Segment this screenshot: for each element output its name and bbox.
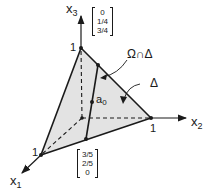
- x2-tick-one: 1: [150, 123, 156, 134]
- x1-axis-label: x1: [10, 174, 22, 190]
- x3-axis-label: x3: [66, 2, 78, 18]
- origin-dot: [80, 116, 84, 120]
- point-a0-label: a0: [96, 94, 107, 107]
- vector-bottom-1: 2/5: [80, 159, 95, 168]
- vector-top-2: 3/4: [95, 26, 110, 35]
- intersection-label: Ω∩Δ: [127, 48, 153, 60]
- simplex-diagram: x3 x2 x1 1 1 1 0 1/4 3/4 3/5 2/5 0 Ω∩Δ Δ…: [0, 0, 213, 195]
- vertex-x2: [149, 116, 153, 120]
- point-a0-sub: 0: [102, 98, 106, 107]
- vertex-x3: [79, 46, 83, 50]
- vector-bottom-0: 3/5: [80, 150, 95, 159]
- vector-bottom-2: 0: [80, 168, 95, 177]
- x3-sub: 3: [73, 8, 78, 18]
- segment-top-point: [96, 63, 100, 67]
- x1-tick-one: 1: [32, 147, 38, 158]
- vector-top: 0 1/4 3/4: [92, 7, 113, 36]
- x2-axis-label: x2: [191, 115, 203, 131]
- vertex-x1: [39, 153, 43, 157]
- x1-sub: 1: [17, 180, 22, 190]
- simplex-label: Δ: [150, 77, 158, 89]
- x2-sub: 2: [198, 121, 203, 131]
- x3-tick-one: 1: [70, 42, 76, 53]
- vector-bottom: 3/5 2/5 0: [77, 149, 98, 178]
- segment-bottom-point: [84, 137, 88, 141]
- point-a0: [90, 100, 94, 104]
- vector-top-0: 0: [95, 8, 110, 17]
- vector-top-1: 1/4: [95, 17, 110, 26]
